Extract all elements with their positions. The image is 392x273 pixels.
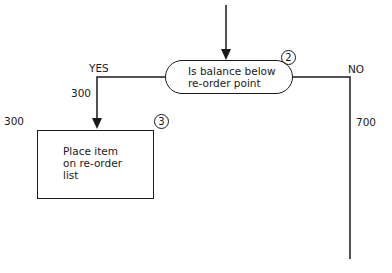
yes-arrowhead-icon (92, 118, 102, 129)
no-branch-line (293, 77, 350, 259)
yes-value: 300 (71, 87, 91, 99)
process-text-line-1: Place item (63, 145, 153, 157)
decision-text-line-1: Is balance below (188, 65, 292, 77)
no-label: NO (348, 63, 364, 75)
yes-branch-line (97, 77, 165, 120)
yes-label: YES (89, 62, 109, 74)
process-text-line-3: list (63, 169, 153, 181)
process-step-number: 3 (154, 114, 169, 129)
no-value: 700 (356, 116, 376, 128)
process-text-line-2: on re-order (63, 157, 153, 169)
decision-text-line-2: re-order point (188, 77, 292, 89)
decision-step-number: 2 (281, 50, 296, 65)
process-node: Place item on re-order list (37, 130, 154, 199)
decision-node: Is balance below re-order point (165, 60, 293, 94)
process-count-label: 300 (4, 115, 24, 127)
incoming-arrowhead-icon (221, 49, 231, 60)
